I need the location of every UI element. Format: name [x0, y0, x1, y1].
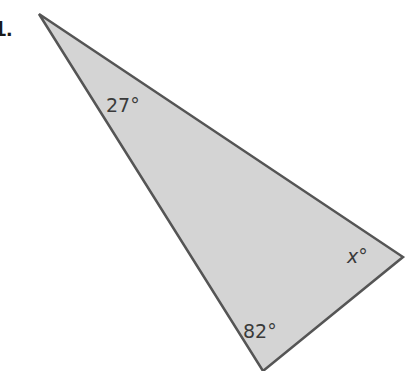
angle-label-bottom: 82°	[243, 322, 277, 341]
angle-label-right: x°	[347, 247, 368, 266]
triangle-figure	[0, 0, 407, 371]
angle-label-top: 27°	[106, 96, 140, 115]
diagram-stage: 1. 27° x° 82°	[0, 0, 407, 371]
triangle-shape	[39, 14, 403, 371]
